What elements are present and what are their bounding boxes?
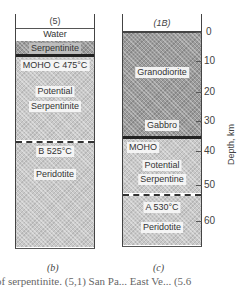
depth-axis-title: Depth, km (226, 124, 236, 165)
label-a-temp: A 530°C (143, 202, 180, 213)
layer-peridotite-c: A 530°C Peridotite (123, 196, 201, 245)
tick-10 (196, 61, 202, 62)
column-b: (5) Water Serpentinite MOHO C 475°C Pote… (15, 14, 95, 249)
label-moho: MOHO (127, 142, 159, 153)
tick-40 (196, 151, 202, 152)
layer-granodiorite-gabbro: Granodiorite Gabbro (123, 33, 201, 136)
tick-label-50: 50 (204, 180, 215, 190)
label-gabbro: Gabbro (145, 120, 179, 131)
layer-potential-serpentinite: MOHO C 475°C Potential Serpentinite (16, 57, 94, 140)
caption-c: (c) (153, 262, 164, 273)
tick-label-40: 40 (204, 146, 215, 156)
label-potential: Potential (35, 86, 74, 97)
column-c: (1B) Granodiorite Gabbro MOHO Potential … (122, 14, 202, 247)
column-c-header: (1B) (153, 18, 170, 28)
layer-water: Water (16, 29, 94, 41)
label-moho-c: MOHO C 475°C (21, 60, 90, 71)
label-peridotite-c: Peridotite (141, 222, 183, 233)
tick-50 (196, 185, 202, 186)
layer-serpentinite: Serpentinite (16, 41, 94, 55)
tick-0 (196, 32, 202, 33)
tick-label-60: 60 (204, 216, 215, 226)
caption-b: (b) (47, 262, 59, 273)
label-serpentinite: Serpentinite (29, 43, 81, 54)
layer-peridotite: B 525°C Peridotite (16, 143, 94, 247)
column-b-header: (5) (50, 16, 61, 26)
label-peridotite: Peridotite (34, 169, 76, 180)
label-water: Water (41, 29, 69, 40)
label-granodiorite: Granodiorite (135, 67, 189, 78)
tick-30 (196, 121, 202, 122)
tick-label-30: 30 (204, 116, 215, 126)
tick-20 (196, 92, 202, 93)
tick-label-20: 20 (204, 87, 215, 97)
label-potential-c: Potential (142, 160, 181, 171)
label-b-temp: B 525°C (36, 146, 74, 157)
tick-label-10: 10 (204, 56, 215, 66)
label-serpentine-c: Serpentine (138, 174, 186, 185)
tick-label-0: 0 (206, 27, 212, 37)
tick-60 (196, 221, 202, 222)
label-serpentinite-2: Serpentinite (29, 101, 81, 112)
figure-caption-fragment: of serpentinite. (5,1) San Pa... East Ve… (0, 275, 191, 287)
layer-potential-serpentine: MOHO Potential Serpentine (123, 139, 201, 193)
